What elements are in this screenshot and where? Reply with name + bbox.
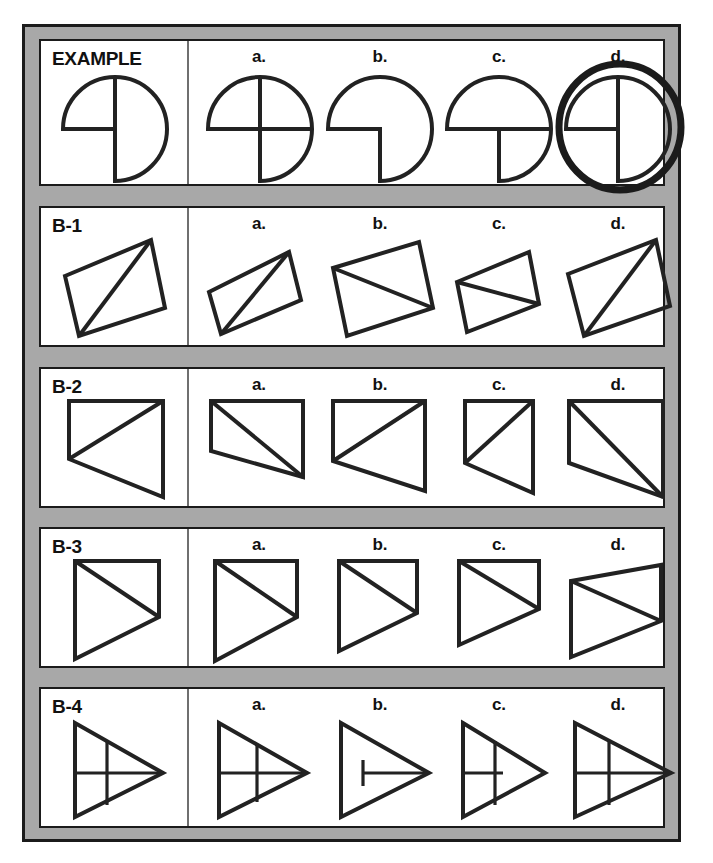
option-label-d[interactable]: d. [610,215,625,232]
answer-circle-mark [553,61,687,193]
option-shape-b-3-b[interactable] [333,555,437,657]
row-label-example: EXAMPLE [52,49,142,68]
option-shape-b-1-c[interactable] [453,248,555,340]
option-shape-b-4-b[interactable] [333,717,439,823]
option-shape-b-2-c[interactable] [461,395,547,499]
option-label-a[interactable]: a. [252,376,266,393]
prompt-shape-b-2 [65,395,175,503]
outer-frame: EXAMPLE a. b. c. d. [22,24,681,842]
option-shape-example-b[interactable] [324,71,440,183]
worksheet-page: EXAMPLE a. b. c. d. [0,0,713,863]
row-label-b-4: B-4 [52,697,82,716]
option-label-b[interactable]: b. [372,48,387,65]
option-label-a[interactable]: a. [252,536,266,553]
option-label-a[interactable]: a. [252,48,266,65]
row-panel-example: EXAMPLE a. b. c. d. [39,39,665,186]
option-shape-b-1-a[interactable] [207,248,321,340]
option-label-a[interactable]: a. [252,215,266,232]
option-shape-b-3-d[interactable] [565,559,675,663]
option-label-c[interactable]: c. [492,48,506,65]
option-label-b[interactable]: b. [372,536,387,553]
prompt-shape-b-4 [67,717,173,823]
row-divider [187,41,189,184]
option-label-b[interactable]: b. [372,696,387,713]
option-shape-b-4-d[interactable] [567,717,679,823]
row-label-b-3: B-3 [52,537,82,556]
prompt-shape-b-3 [69,555,173,665]
row-panel-b-1: B-1 a. b. c. d. [39,206,665,347]
option-shape-b-4-a[interactable] [211,717,317,823]
option-shape-b-3-c[interactable] [453,555,557,651]
option-label-d[interactable]: d. [610,376,625,393]
option-label-c[interactable]: c. [492,696,506,713]
option-shape-example-c[interactable] [443,71,559,183]
option-shape-b-3-a[interactable] [209,555,313,667]
option-shape-b-2-d[interactable] [565,395,675,503]
row-label-b-1: B-1 [52,216,82,235]
row-divider [187,529,189,666]
option-shape-b-1-b[interactable] [327,238,441,342]
row-panel-b-2: B-2 a. b. c. d. [39,367,665,508]
option-label-b[interactable]: b. [372,215,387,232]
option-label-d[interactable]: d. [610,536,625,553]
option-label-c[interactable]: c. [492,215,506,232]
row-divider [187,208,189,345]
row-divider [187,689,189,826]
row-divider [187,369,189,506]
row-label-b-2: B-2 [52,377,82,396]
option-label-c[interactable]: c. [492,376,506,393]
row-panel-b-3: B-3 a. b. c. d. [39,527,665,668]
option-label-a[interactable]: a. [252,696,266,713]
option-shape-b-4-c[interactable] [455,717,561,823]
prompt-shape-example [59,71,175,183]
row-panel-b-4: B-4 a. b. c. d. [39,687,665,828]
prompt-shape-b-1 [61,236,175,342]
option-label-b[interactable]: b. [372,376,387,393]
option-shape-example-a[interactable] [204,71,320,183]
option-shape-b-2-a[interactable] [207,395,317,487]
option-shape-b-2-b[interactable] [329,395,439,497]
option-label-d[interactable]: d. [610,696,625,713]
option-label-c[interactable]: c. [492,536,506,553]
option-shape-b-1-d[interactable] [562,236,678,342]
